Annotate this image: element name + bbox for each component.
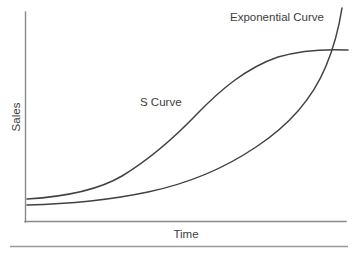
y-axis-title: Sales xyxy=(10,102,22,131)
sales-vs-time-chart: Sales Time S Curve Exponential Curve xyxy=(0,0,356,258)
chart-background xyxy=(0,0,356,258)
s-curve-label: S Curve xyxy=(140,96,182,108)
exponential-curve-label: Exponential Curve xyxy=(230,11,324,23)
x-axis-title: Time xyxy=(173,228,198,240)
